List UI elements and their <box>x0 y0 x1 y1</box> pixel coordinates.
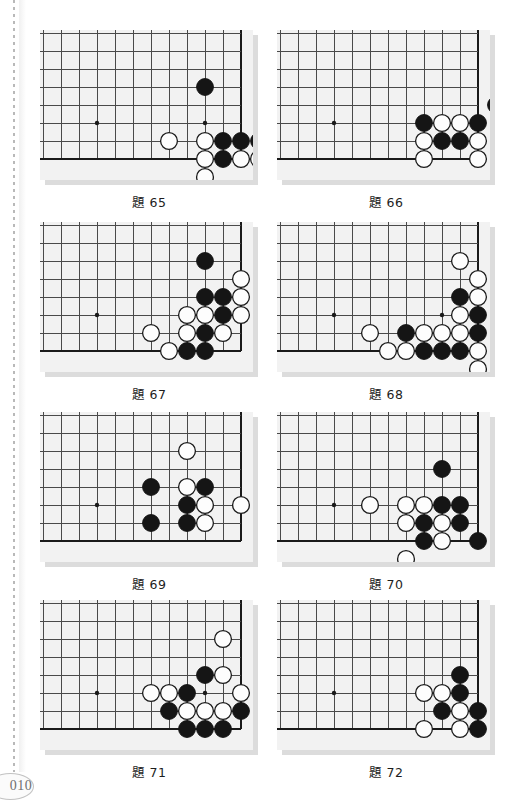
stone-white[interactable] <box>398 551 415 562</box>
stone-black[interactable] <box>452 515 469 532</box>
stone-black[interactable] <box>416 533 433 550</box>
stone-black[interactable] <box>197 721 214 738</box>
stone-white[interactable] <box>470 271 487 288</box>
go-board[interactable] <box>40 412 253 562</box>
stone-white[interactable] <box>143 685 160 702</box>
stone-white[interactable] <box>251 151 253 168</box>
stone-black[interactable] <box>470 325 487 342</box>
stone-white[interactable] <box>197 307 214 324</box>
stone-white[interactable] <box>197 133 214 150</box>
stone-white[interactable] <box>452 115 469 132</box>
stone-black[interactable] <box>215 151 232 168</box>
stone-white[interactable] <box>197 515 214 532</box>
stone-white[interactable] <box>233 289 250 306</box>
stone-white[interactable] <box>215 667 232 684</box>
stone-white[interactable] <box>197 169 214 180</box>
stone-black[interactable] <box>179 721 196 738</box>
stone-white[interactable] <box>434 115 451 132</box>
stone-white[interactable] <box>434 325 451 342</box>
stone-white[interactable] <box>197 497 214 514</box>
stone-black[interactable] <box>197 325 214 342</box>
stone-black[interactable] <box>215 721 232 738</box>
stone-white[interactable] <box>452 253 469 270</box>
stone-white[interactable] <box>470 361 487 372</box>
stone-black[interactable] <box>470 115 487 132</box>
stone-black[interactable] <box>215 133 232 150</box>
stone-black[interactable] <box>398 325 415 342</box>
stone-white[interactable] <box>233 685 250 702</box>
stone-black[interactable] <box>434 461 451 478</box>
stone-black[interactable] <box>197 479 214 496</box>
stone-black[interactable] <box>452 133 469 150</box>
stone-white[interactable] <box>470 343 487 360</box>
stone-black[interactable] <box>143 479 160 496</box>
stone-white[interactable] <box>452 721 469 738</box>
stone-black[interactable] <box>470 307 487 324</box>
stone-white[interactable] <box>215 325 232 342</box>
stone-black[interactable] <box>179 497 196 514</box>
stone-white[interactable] <box>452 325 469 342</box>
stone-black[interactable] <box>434 343 451 360</box>
stone-black[interactable] <box>452 667 469 684</box>
stone-white[interactable] <box>434 685 451 702</box>
stone-white[interactable] <box>179 307 196 324</box>
stone-white[interactable] <box>416 721 433 738</box>
stone-white[interactable] <box>452 703 469 720</box>
stone-black[interactable] <box>470 533 487 550</box>
stone-white[interactable] <box>161 685 178 702</box>
stone-black[interactable] <box>197 343 214 360</box>
stone-black[interactable] <box>452 685 469 702</box>
go-board[interactable] <box>277 600 490 750</box>
stone-white[interactable] <box>380 343 397 360</box>
stone-white[interactable] <box>233 271 250 288</box>
stone-black[interactable] <box>416 115 433 132</box>
stone-white[interactable] <box>197 151 214 168</box>
stone-black[interactable] <box>434 497 451 514</box>
go-board[interactable] <box>40 30 253 180</box>
stone-white[interactable] <box>416 497 433 514</box>
stone-black[interactable] <box>197 667 214 684</box>
stone-white[interactable] <box>161 133 178 150</box>
stone-black[interactable] <box>161 703 178 720</box>
stone-white[interactable] <box>416 133 433 150</box>
stone-black[interactable] <box>251 133 253 150</box>
stone-black[interactable] <box>197 289 214 306</box>
stone-white[interactable] <box>416 325 433 342</box>
stone-black[interactable] <box>215 307 232 324</box>
stone-black[interactable] <box>179 343 196 360</box>
stone-black[interactable] <box>197 253 214 270</box>
stone-white[interactable] <box>452 307 469 324</box>
stone-white[interactable] <box>179 325 196 342</box>
stone-white[interactable] <box>470 151 487 168</box>
go-board[interactable] <box>277 30 490 180</box>
stone-white[interactable] <box>161 343 178 360</box>
stone-white[interactable] <box>398 515 415 532</box>
stone-white[interactable] <box>362 497 379 514</box>
stone-white[interactable] <box>434 515 451 532</box>
stone-black[interactable] <box>197 79 214 96</box>
stone-white[interactable] <box>179 703 196 720</box>
stone-black[interactable] <box>452 289 469 306</box>
stone-black[interactable] <box>179 515 196 532</box>
stone-white[interactable] <box>434 533 451 550</box>
stone-white[interactable] <box>197 703 214 720</box>
stone-black[interactable] <box>470 721 487 738</box>
stone-white[interactable] <box>143 325 160 342</box>
stone-white[interactable] <box>470 133 487 150</box>
go-board[interactable] <box>40 600 253 750</box>
stone-black[interactable] <box>215 289 232 306</box>
stone-white[interactable] <box>215 703 232 720</box>
go-board[interactable] <box>40 222 253 372</box>
stone-black[interactable] <box>434 703 451 720</box>
go-board[interactable] <box>277 412 490 562</box>
stone-black[interactable] <box>452 497 469 514</box>
stone-white[interactable] <box>179 443 196 460</box>
stone-white[interactable] <box>233 497 250 514</box>
stone-white[interactable] <box>233 307 250 324</box>
stone-black[interactable] <box>179 685 196 702</box>
stone-black[interactable] <box>416 343 433 360</box>
stone-white[interactable] <box>416 151 433 168</box>
stone-white[interactable] <box>362 325 379 342</box>
stone-black[interactable] <box>434 133 451 150</box>
stone-black[interactable] <box>233 133 250 150</box>
